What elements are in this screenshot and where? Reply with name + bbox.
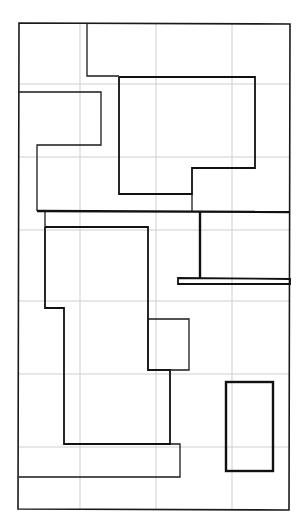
dividing-wall [37, 211, 290, 212]
background [0, 0, 307, 525]
floor-plan-diagram [0, 0, 307, 525]
